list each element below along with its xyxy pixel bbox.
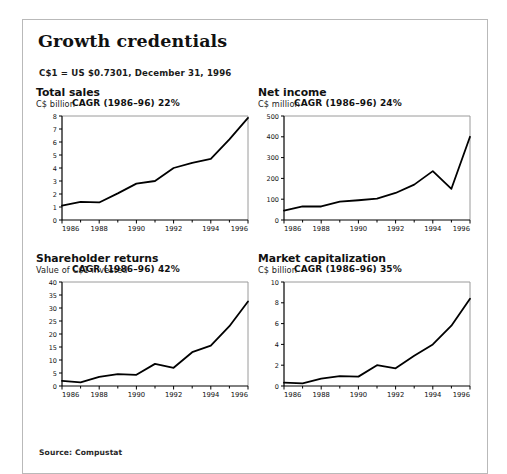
y-tick-label: 5	[53, 370, 57, 378]
chart-panel-net-income: Net income C$ million 010020030040050019…	[258, 86, 480, 238]
x-tick-label: 1990	[350, 391, 367, 399]
x-tick-label: 1992	[165, 391, 182, 399]
y-tick-label: 500	[267, 113, 279, 121]
data-series-line	[284, 299, 470, 384]
y-tick-label: 3	[53, 178, 57, 186]
chart-plot-area: 012345678198619881990199219941996	[36, 112, 258, 236]
y-tick-label: 20	[49, 331, 57, 339]
y-tick-label: 4	[53, 165, 57, 173]
x-tick-label: 1986	[284, 391, 301, 399]
y-tick-label: 10	[49, 357, 57, 365]
y-tick-label: 0	[275, 217, 279, 225]
chart-panel-market-capitalization: Market capitalization C$ billion 0246810…	[258, 252, 480, 404]
y-tick-label: 0	[53, 383, 57, 391]
exchange-rate-note: C$1 = US $0.7301, December 31, 1996	[39, 68, 231, 78]
y-tick-label: 100	[267, 196, 279, 204]
y-tick-label: 30	[49, 305, 57, 313]
page-title: Growth credentials	[38, 31, 227, 51]
chart-annotation-cagr: CAGR (1986–96) 35%	[294, 264, 402, 274]
y-tick-label: 10	[271, 279, 279, 287]
chart-plot-area: 0100200300400500198619881990199219941996	[258, 112, 480, 236]
x-tick-label: 1990	[128, 225, 145, 233]
y-tick-label: 2	[53, 191, 57, 199]
x-tick-label: 1994	[424, 391, 441, 399]
x-tick-label: 1988	[91, 225, 108, 233]
x-tick-label: 1986	[284, 225, 301, 233]
y-tick-label: 5	[53, 152, 57, 160]
plot-frame	[284, 116, 470, 220]
chart-panel-total-sales: Total sales C$ billion 01234567819861988…	[36, 86, 258, 238]
y-tick-label: 40	[49, 279, 57, 287]
x-tick-label: 1996	[453, 391, 470, 399]
plot-frame	[62, 116, 248, 220]
chart-annotation-cagr: CAGR (1986–96) 42%	[72, 264, 180, 274]
y-tick-label: 8	[53, 113, 57, 121]
chart-unit-label: C$ billion	[36, 99, 75, 109]
y-tick-label: 6	[53, 139, 57, 147]
y-tick-label: 15	[49, 344, 57, 352]
chart-panel-shareholder-returns: Shareholder returns Value of C$1 investe…	[36, 252, 258, 404]
report-card-frame: Growth credentials C$1 = US $0.7301, Dec…	[22, 19, 488, 474]
chart-plot-area: 0246810198619881990199219941996	[258, 278, 480, 402]
y-tick-label: 400	[267, 133, 279, 141]
x-tick-label: 1986	[62, 225, 79, 233]
x-tick-label: 1990	[350, 225, 367, 233]
x-tick-label: 1992	[165, 225, 182, 233]
chart-annotation-cagr: CAGR (1986–96) 24%	[294, 98, 402, 108]
line-chart-svg: 012345678198619881990199219941996	[36, 112, 258, 236]
x-tick-label: 1988	[313, 391, 330, 399]
line-chart-svg: 0100200300400500198619881990199219941996	[258, 112, 480, 236]
y-tick-label: 1	[53, 204, 57, 212]
x-tick-label: 1994	[202, 225, 219, 233]
x-tick-label: 1994	[202, 391, 219, 399]
x-tick-label: 1994	[424, 225, 441, 233]
chart-plot-area: 0510152025303540198619881990199219941996	[36, 278, 258, 402]
x-tick-label: 1996	[231, 391, 248, 399]
x-tick-label: 1986	[62, 391, 79, 399]
x-tick-label: 1992	[387, 391, 404, 399]
y-tick-label: 25	[49, 318, 57, 326]
x-tick-label: 1988	[313, 225, 330, 233]
y-tick-label: 0	[53, 217, 57, 225]
x-tick-label: 1992	[387, 225, 404, 233]
line-chart-svg: 0510152025303540198619881990199219941996	[36, 278, 258, 402]
chart-unit-label: C$ billion	[258, 265, 297, 275]
y-tick-label: 35	[49, 292, 57, 300]
source-note: Source: Compustat	[39, 448, 122, 457]
y-tick-label: 300	[267, 154, 279, 162]
y-tick-label: 2	[275, 362, 279, 370]
x-tick-label: 1996	[453, 225, 470, 233]
data-series-line	[62, 118, 248, 206]
y-tick-label: 6	[275, 320, 279, 328]
y-tick-label: 4	[275, 341, 279, 349]
chart-annotation-cagr: CAGR (1986–96) 22%	[72, 98, 180, 108]
y-tick-label: 200	[267, 175, 279, 183]
data-series-line	[62, 302, 248, 383]
x-tick-label: 1988	[91, 391, 108, 399]
x-tick-label: 1996	[231, 225, 248, 233]
x-tick-label: 1990	[128, 391, 145, 399]
line-chart-svg: 0246810198619881990199219941996	[258, 278, 480, 402]
data-series-line	[284, 137, 470, 211]
y-tick-label: 8	[275, 299, 279, 307]
y-tick-label: 0	[275, 383, 279, 391]
y-tick-label: 7	[53, 126, 57, 134]
plot-frame	[62, 282, 248, 386]
